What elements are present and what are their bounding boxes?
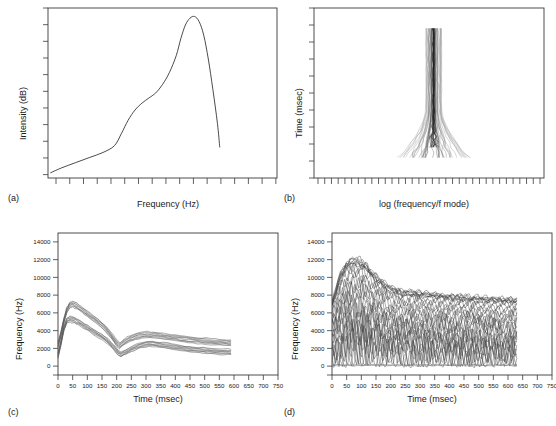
svg-text:550: 550 xyxy=(488,382,499,389)
panel-a: Intensity (dB) Frequency (Hz) (a) xyxy=(0,0,290,215)
svg-text:0: 0 xyxy=(56,382,60,389)
svg-text:750: 750 xyxy=(547,382,556,389)
panel-a-plot xyxy=(0,0,290,215)
svg-text:2000: 2000 xyxy=(311,345,325,352)
svg-text:50: 50 xyxy=(69,382,76,389)
svg-text:12000: 12000 xyxy=(307,256,325,263)
svg-text:350: 350 xyxy=(156,382,167,389)
panel-a-y-axis-title: Intensity (dB) xyxy=(18,87,28,140)
svg-text:0: 0 xyxy=(330,382,334,389)
svg-text:12000: 12000 xyxy=(33,256,51,263)
svg-text:14000: 14000 xyxy=(33,238,51,245)
svg-text:4000: 4000 xyxy=(37,327,51,334)
svg-text:650: 650 xyxy=(244,382,255,389)
panel-c-x-axis-title: Time (msec) xyxy=(58,394,258,404)
svg-text:250: 250 xyxy=(400,382,411,389)
svg-text:6000: 6000 xyxy=(311,309,325,316)
panel-b-label: (b) xyxy=(284,193,295,203)
svg-text:0: 0 xyxy=(321,362,325,369)
svg-text:600: 600 xyxy=(229,382,240,389)
panel-d-x-axis-title: Time (msec) xyxy=(332,394,532,404)
svg-text:550: 550 xyxy=(214,382,225,389)
svg-text:10000: 10000 xyxy=(307,274,325,281)
svg-text:300: 300 xyxy=(415,382,426,389)
svg-text:200: 200 xyxy=(112,382,123,389)
svg-text:150: 150 xyxy=(97,382,108,389)
svg-text:600: 600 xyxy=(503,382,514,389)
svg-text:100: 100 xyxy=(82,382,93,389)
svg-text:350: 350 xyxy=(430,382,441,389)
svg-text:8000: 8000 xyxy=(311,291,325,298)
svg-text:300: 300 xyxy=(141,382,152,389)
panel-c: 0501001502002503003504004505005506006507… xyxy=(0,215,290,426)
panel-d-label: (d) xyxy=(284,407,295,417)
svg-text:10000: 10000 xyxy=(33,274,51,281)
svg-text:200: 200 xyxy=(386,382,397,389)
svg-text:400: 400 xyxy=(444,382,455,389)
svg-text:14000: 14000 xyxy=(307,238,325,245)
panel-b-plot xyxy=(276,0,556,215)
svg-text:4000: 4000 xyxy=(311,327,325,334)
panel-b: Time (msec) log (frequency/f mode) (b) xyxy=(276,0,556,215)
svg-text:8000: 8000 xyxy=(37,291,51,298)
panel-b-x-axis-title: log (frequency/f mode) xyxy=(324,199,524,209)
svg-text:650: 650 xyxy=(518,382,529,389)
panel-a-label: (a) xyxy=(8,193,19,203)
svg-text:50: 50 xyxy=(343,382,350,389)
panel-d-y-axis-title: Frequency (Hz) xyxy=(290,298,300,360)
svg-text:6000: 6000 xyxy=(37,309,51,316)
figure-root: Intensity (dB) Frequency (Hz) (a) Time (… xyxy=(0,0,556,426)
svg-text:250: 250 xyxy=(126,382,137,389)
svg-text:0: 0 xyxy=(47,362,51,369)
svg-text:700: 700 xyxy=(532,382,543,389)
svg-text:500: 500 xyxy=(474,382,485,389)
panel-c-y-axis-title: Frequency (Hz) xyxy=(14,298,24,360)
svg-text:500: 500 xyxy=(200,382,211,389)
panel-c-label: (c) xyxy=(8,407,19,417)
svg-text:400: 400 xyxy=(170,382,181,389)
svg-text:450: 450 xyxy=(459,382,470,389)
svg-text:100: 100 xyxy=(356,382,367,389)
panel-a-x-axis-title: Frequency (Hz) xyxy=(68,199,268,209)
panel-d: 0501001502002503003504004505005506006507… xyxy=(276,215,556,426)
panel-b-y-axis-title: Time (msec) xyxy=(294,88,304,138)
svg-text:450: 450 xyxy=(185,382,196,389)
svg-text:700: 700 xyxy=(258,382,269,389)
svg-text:2000: 2000 xyxy=(37,345,51,352)
svg-text:150: 150 xyxy=(371,382,382,389)
